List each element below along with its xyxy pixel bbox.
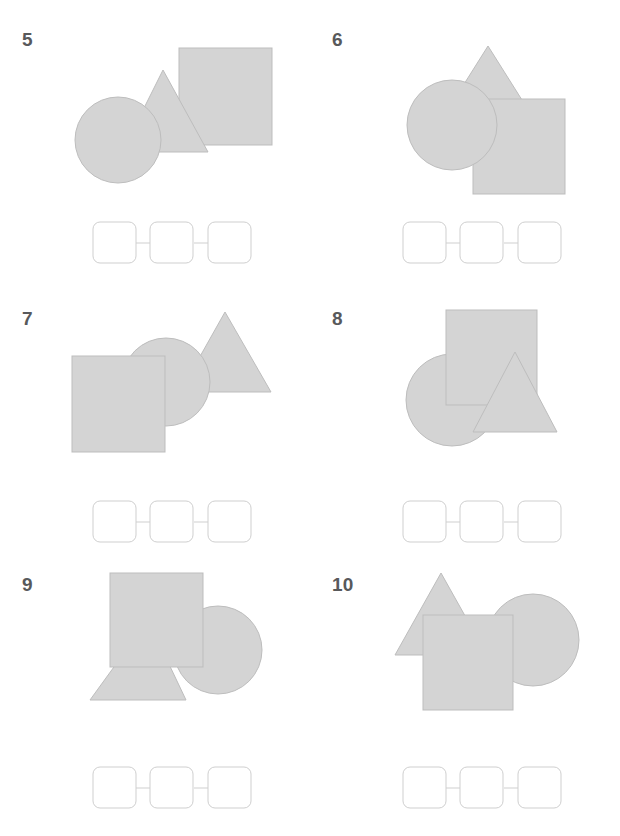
answer-row (92, 500, 252, 542)
problem-8: 8 (310, 279, 620, 557)
answer-box-3[interactable] (518, 222, 561, 263)
answer-row (402, 500, 562, 542)
answer-box-2[interactable] (460, 767, 503, 808)
shape-stage (310, 279, 620, 489)
answer-box-3[interactable] (208, 501, 251, 542)
answer-box-1[interactable] (93, 767, 136, 808)
answer-box-1[interactable] (403, 222, 446, 263)
answer-box-2[interactable] (150, 222, 193, 263)
answer-box-2[interactable] (150, 767, 193, 808)
square-shape (423, 615, 513, 710)
problem-10: 10 (310, 545, 620, 823)
problem-9: 9 (0, 545, 310, 823)
circle-shape (407, 80, 497, 170)
answer-box-1[interactable] (403, 767, 446, 808)
answer-box-1[interactable] (93, 222, 136, 263)
answer-box-2[interactable] (460, 222, 503, 263)
worksheet-page: 5 6 (0, 0, 620, 836)
answer-box-3[interactable] (518, 767, 561, 808)
circle-shape (75, 97, 161, 183)
answer-row (402, 221, 562, 263)
answer-box-2[interactable] (150, 501, 193, 542)
answer-box-3[interactable] (208, 767, 251, 808)
answer-box-1[interactable] (93, 501, 136, 542)
square-shape (110, 573, 203, 667)
shape-stage (0, 279, 310, 489)
problem-7: 7 (0, 279, 310, 557)
answer-box-3[interactable] (208, 222, 251, 263)
problem-6: 6 (310, 0, 620, 278)
answer-row (92, 766, 252, 808)
answer-row (402, 766, 562, 808)
shape-stage (0, 545, 310, 755)
answer-row (92, 221, 252, 263)
answer-box-3[interactable] (518, 501, 561, 542)
problem-5: 5 (0, 0, 310, 278)
shape-stage (310, 545, 620, 755)
square-shape (72, 356, 165, 452)
shape-stage (0, 0, 310, 210)
answer-box-1[interactable] (403, 501, 446, 542)
shape-stage (310, 0, 620, 210)
answer-box-2[interactable] (460, 501, 503, 542)
